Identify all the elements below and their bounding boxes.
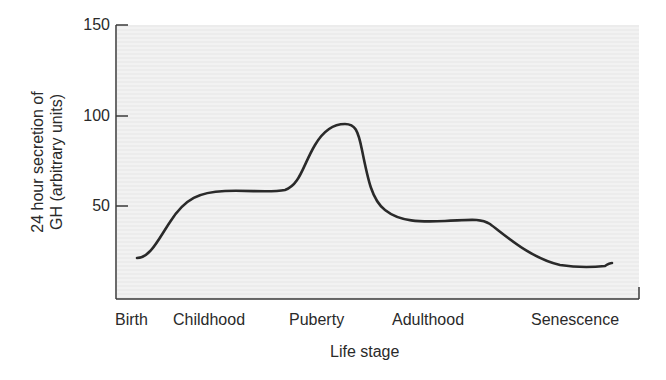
y-axis-title-line1: 24 hour secretion of xyxy=(28,62,47,262)
x-tick-label-birth: Birth xyxy=(115,311,148,329)
y-axis-title-line2: GH (arbitrary units) xyxy=(47,62,66,262)
y-tick-label-150: 150 xyxy=(70,16,110,34)
gh-secretion-curve xyxy=(137,124,612,267)
y-axis-title: 24 hour secretion of GH (arbitrary units… xyxy=(28,62,66,262)
y-tick-label-100: 100 xyxy=(70,107,110,125)
x-tick-label-childhood: Childhood xyxy=(173,311,245,329)
x-tick-label-puberty: Puberty xyxy=(289,311,344,329)
y-tick-label-50: 50 xyxy=(70,197,110,215)
x-tick-label-senescence: Senescence xyxy=(531,311,619,329)
x-tick-label-adulthood: Adulthood xyxy=(392,311,464,329)
x-axis-title: Life stage xyxy=(330,343,399,361)
